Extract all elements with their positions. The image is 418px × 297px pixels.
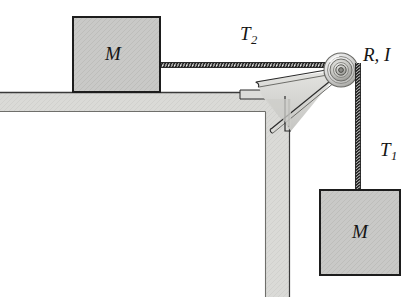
pulley	[324, 53, 358, 87]
table	[0, 92, 290, 297]
rope-horizontal	[160, 63, 341, 68]
label-tension-upper: T2	[240, 24, 257, 46]
label-pulley-radius-inertia: R, I	[363, 45, 390, 64]
figure-canvas: T2 T1 R, I M M	[0, 0, 418, 297]
rope-vertical	[356, 63, 361, 191]
label-block-on-table-mass: M	[105, 44, 121, 63]
label-block-hanging-mass: M	[352, 222, 368, 241]
label-tension-lower: T1	[380, 140, 397, 162]
diagram-svg	[0, 0, 418, 297]
